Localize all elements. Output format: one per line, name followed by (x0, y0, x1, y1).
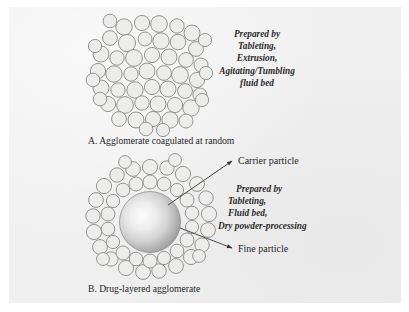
method-note-line: Fluid bed, (218, 207, 350, 219)
method-note-line: Tableting, (218, 195, 350, 207)
method-note-line: Dry powder-processing (218, 220, 350, 232)
panel-a-caption: A. Agglomerate coagulated at random (88, 135, 234, 146)
figure-root: Prepared by Tableting, Extrusion, Agitat… (0, 0, 409, 312)
carrier-particle-label: Carrier particle (238, 155, 299, 166)
panel-b-agglomerate (86, 154, 217, 280)
method-note-line: Prepared by (198, 28, 316, 40)
carrier-core-sphere (120, 192, 181, 253)
method-note-line: Prepared by (218, 183, 350, 195)
method-note-line: Extrusion, (198, 52, 316, 64)
method-note-line: Agitating/Tumbling (198, 65, 316, 77)
panel-b-caption: B. Drug-layered agglomerate (88, 283, 200, 294)
method-note-line: Tableting, (198, 40, 316, 52)
method-note-line: fluid bed (198, 77, 316, 89)
panel-a-agglomerate (86, 14, 212, 136)
panel-a-method-note: Prepared by Tableting, Extrusion, Agitat… (198, 28, 316, 89)
fine-particle-label: Fine particle (238, 243, 288, 254)
panel-b-method-note: Prepared by Tableting, Fluid bed, Dry po… (218, 183, 350, 232)
